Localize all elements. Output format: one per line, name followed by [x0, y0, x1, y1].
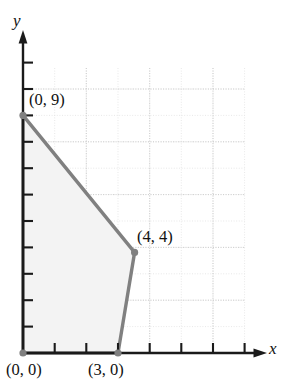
plot-canvas: [0, 0, 289, 384]
x-axis-label: x: [269, 340, 277, 357]
feasible-region-polygon: [23, 115, 135, 353]
vertex-label-x-intercept: (3, 0): [88, 362, 124, 379]
vertex-dot-x-intercept: [114, 349, 121, 356]
vertex-label-mid: (4, 4): [137, 229, 173, 246]
y-axis-label: y: [13, 12, 21, 29]
vertex-dot-y-intercept: [19, 112, 26, 119]
vertex-dot-mid: [131, 249, 138, 256]
vertex-dot-origin: [19, 349, 26, 356]
vertex-label-y-intercept: (0, 9): [29, 92, 65, 109]
vertex-label-origin: (0, 0): [6, 362, 42, 379]
coordinate-plane-figure: y x (0, 9) (4, 4) (0, 0) (3, 0): [0, 0, 289, 384]
